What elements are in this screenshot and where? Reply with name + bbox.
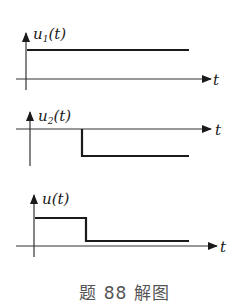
u-signal: [35, 218, 189, 241]
panel-u1: u1(t) t: [16, 25, 220, 90]
u2-y-label: u2(t): [38, 107, 71, 126]
panel-u2: u2(t) t: [16, 107, 222, 166]
figure-caption: 题 88 解图: [0, 279, 249, 304]
u1-x-label: t: [213, 71, 220, 89]
u2-signal: [82, 129, 189, 156]
u-y-label: u(t): [42, 190, 70, 208]
panel-u: u(t) t: [16, 190, 227, 257]
u-x-label: t: [220, 238, 227, 256]
waveform-diagram: u1(t) t u2(t) t u(t) t: [0, 0, 249, 307]
u1-y-label: u1(t): [33, 25, 66, 44]
u2-x-label: t: [215, 121, 222, 139]
